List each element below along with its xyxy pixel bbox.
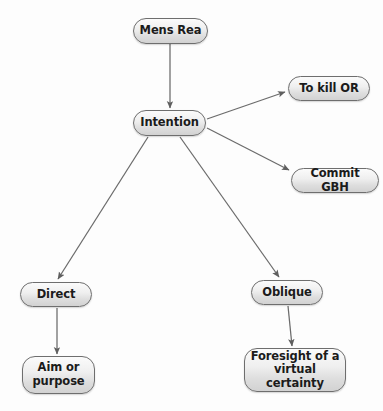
node-aim-or-purpose[interactable]: Aim or purpose: [22, 356, 95, 394]
node-label-foresight: Foresight of a virtual certainty: [245, 350, 345, 391]
edge-oblique-to-foresight: [288, 306, 292, 346]
node-label-intention: Intention: [136, 116, 203, 130]
node-label-direct: Direct: [33, 288, 80, 302]
node-to-kill-or[interactable]: To kill OR: [288, 76, 370, 101]
edge-intention-to-oblique: [180, 137, 279, 277]
edge-intention-to-direct: [58, 137, 148, 279]
node-commit-gbh[interactable]: Commit GBH: [291, 168, 379, 193]
edge-intention-to-kill: [207, 92, 285, 119]
node-foresight[interactable]: Foresight of a virtual certainty: [244, 348, 346, 392]
node-label-commit-gbh: Commit GBH: [292, 167, 378, 194]
edge-intention-to-gbh: [207, 128, 289, 170]
node-label-aim-or-purpose: Aim or purpose: [28, 361, 88, 388]
node-intention[interactable]: Intention: [133, 110, 206, 136]
node-label-oblique: Oblique: [258, 286, 315, 300]
flowchart-canvas: Mens ReaIntentionTo kill ORCommit GBHDir…: [0, 0, 383, 411]
node-direct[interactable]: Direct: [20, 282, 92, 307]
node-mens-rea[interactable]: Mens Rea: [133, 18, 208, 44]
node-oblique[interactable]: Oblique: [251, 280, 323, 305]
node-label-mens-rea: Mens Rea: [136, 24, 206, 38]
node-label-to-kill-or: To kill OR: [295, 82, 362, 96]
